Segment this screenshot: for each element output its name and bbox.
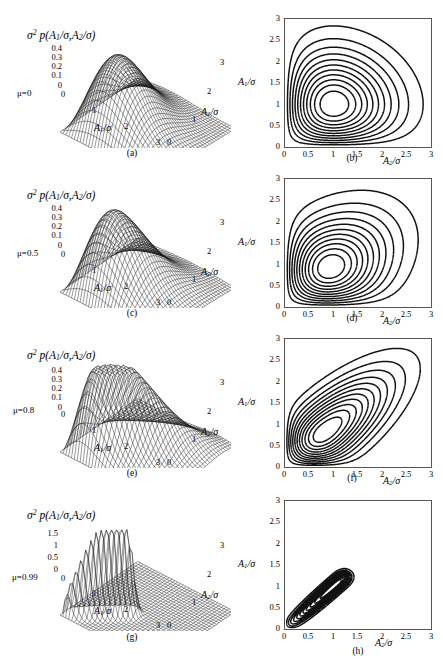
surface-mesh-g	[56, 513, 231, 631]
surface-panel-e: σ2 p(A1/σ,A2/σ) μ=0.8 0.4 0.3 0.2 0.1 0 …	[0, 320, 230, 485]
xtick-b-1: 0.5	[298, 149, 318, 159]
ytick-b-2: 2	[256, 56, 280, 66]
ytick-f-3: 1.5	[256, 397, 280, 407]
xtick-h-5: 2.5	[396, 631, 416, 641]
xtick-f-0: 0	[274, 469, 294, 479]
ytick-h-1: 2.5	[256, 516, 280, 526]
ytick-d-3: 1.5	[256, 237, 280, 247]
xtick-h-0: 0	[274, 631, 294, 641]
ytick-h-0: 3	[256, 495, 280, 505]
mu-label-c: μ=0.5	[17, 248, 38, 258]
ytick-d-4: 1	[256, 259, 280, 269]
ytick-b-5: 0.5	[256, 120, 280, 130]
xtick-d-1: 0.5	[298, 309, 318, 319]
xtick-h-6: 3	[421, 631, 441, 641]
panel-caption-g: (g)	[112, 632, 152, 642]
surface-mesh-c	[56, 193, 231, 308]
ytick-b-0: 3	[256, 13, 280, 23]
xtick-h-2: 1	[323, 631, 343, 641]
surface-panel-a: σ2 p(A1/σ,A2/σ) μ=0 0.4 0.3 0.2 0.1 0 0 …	[0, 0, 230, 165]
contour-panel-b: 3 2.5 2 1.5 1 0.5 0 0 0.5 1 1.5 2 2.5 3 …	[230, 0, 443, 165]
mu-label-a: μ=0	[17, 88, 31, 98]
ztick-g-2: 0.5	[36, 552, 58, 562]
contour-panel-f: 3 2.5 2 1.5 1 0.5 0 0 0.5 1 1.5 2 2.5 3 …	[230, 320, 443, 485]
surface-panel-c: σ2 p(A1/σ,A2/σ) μ=0.5 0.4 0.3 0.2 0.1 0 …	[0, 160, 230, 325]
ytick-f-2: 2	[256, 376, 280, 386]
xtick-d-0: 0	[274, 309, 294, 319]
xtick-f-6: 3	[421, 469, 441, 479]
surface-mesh-e	[56, 353, 231, 468]
xtick-d-6: 3	[421, 309, 441, 319]
contour-plot-b	[284, 18, 432, 148]
mu-label-e: μ=0.8	[13, 405, 34, 415]
ztick-g-0: 1.5	[36, 528, 58, 538]
panel-caption-h: (h)	[338, 646, 378, 656]
ytick-f-0: 3	[256, 333, 280, 343]
ytick-h-3: 1.5	[256, 559, 280, 569]
xtick-b-0: 0	[274, 149, 294, 159]
contour-panel-h: 3 2.5 2 1.5 1 0.5 0 0 0.5 1 1.5 2 2.5 3 …	[230, 480, 443, 667]
axis-label-a1-b: A1/σ	[238, 76, 255, 87]
axis-label-a1-f: A1/σ	[238, 396, 255, 407]
xtick-h-1: 0.5	[298, 631, 318, 641]
axis-label-a1-h: A1/σ	[238, 558, 255, 569]
ytick-d-5: 0.5	[256, 280, 280, 290]
ytick-f-4: 1	[256, 419, 280, 429]
ytick-f-1: 2.5	[256, 354, 280, 364]
ztick-g-1: 1	[36, 540, 58, 550]
ytick-d-1: 2.5	[256, 194, 280, 204]
ytick-b-1: 2.5	[256, 34, 280, 44]
ytick-h-4: 1	[256, 581, 280, 591]
ytick-h-5: 0.5	[256, 602, 280, 612]
contour-panel-d: 3 2.5 2 1.5 1 0.5 0 0 0.5 1 1.5 2 2.5 3 …	[230, 160, 443, 325]
xtick-f-1: 0.5	[298, 469, 318, 479]
xtick-h-3: 1.5	[347, 631, 367, 641]
mu-label-g: μ=0.99	[12, 572, 38, 582]
ytick-d-0: 3	[256, 173, 280, 183]
figure-row-3: σ2 p(A1/σ,A2/σ) μ=0.99 1.5 1 0.5 0 0 1 2…	[0, 480, 443, 667]
contour-plot-d	[284, 178, 432, 308]
contour-plot-f	[284, 338, 432, 468]
panel-caption-c: (c)	[112, 308, 152, 318]
xtick-b-6: 3	[421, 149, 441, 159]
axis-label-a1-d: A1/σ	[238, 236, 255, 247]
ytick-f-5: 0.5	[256, 440, 280, 450]
surface-mesh-a	[56, 33, 231, 148]
surface-panel-g: σ2 p(A1/σ,A2/σ) μ=0.99 1.5 1 0.5 0 0 1 2…	[0, 480, 230, 667]
ytick-b-3: 1.5	[256, 77, 280, 87]
figure-row-1: σ2 p(A1/σ,A2/σ) μ=0.5 0.4 0.3 0.2 0.1 0 …	[0, 160, 443, 325]
ytick-d-2: 2	[256, 216, 280, 226]
figure-row-0: σ2 p(A1/σ,A2/σ) μ=0 0.4 0.3 0.2 0.1 0 0 …	[0, 0, 443, 165]
contour-plot-h	[284, 500, 432, 630]
figure-row-2: σ2 p(A1/σ,A2/σ) μ=0.8 0.4 0.3 0.2 0.1 0 …	[0, 320, 443, 485]
ytick-b-4: 1	[256, 99, 280, 109]
figure-multi-panel: σ2 p(A1/σ,A2/σ) μ=0 0.4 0.3 0.2 0.1 0 0 …	[0, 0, 443, 667]
panel-caption-a: (a)	[112, 148, 152, 158]
ytick-h-2: 2	[256, 538, 280, 548]
panel-caption-e: (e)	[112, 468, 152, 478]
ztick-g-3: 0	[36, 564, 58, 574]
